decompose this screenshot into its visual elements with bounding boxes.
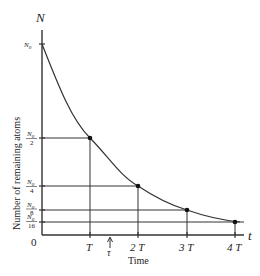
ytick-n0-4-num: N0 [26,178,35,187]
point-2T [136,184,141,189]
decay-curve [42,44,240,222]
x-axis-title: Time [128,255,149,266]
xtick-2T: 2 T [130,241,145,253]
y-axis-title: Number of remaining atoms [11,117,22,230]
xtick-T: T [86,241,93,253]
tau-label: τ [107,247,111,258]
ytick-n0-2-num: N0 [26,130,35,139]
ytick-n0-4-den: 4 [30,187,34,195]
y-axis-symbol: N [35,10,46,25]
point-4T [233,220,238,225]
point-3T [185,208,190,213]
x-axis-symbol: t [248,228,252,243]
ytick-n0-16-den: 16 [28,222,36,230]
ytick-n0: N0 [23,41,32,50]
decay-chart: N t 0 N0 N0 2 N0 4 N0 8 N0 16 T 2 T 3 T … [0,0,260,276]
xtick-3T: 3 T [178,241,194,253]
origin-label: 0 [31,236,37,248]
xtick-4T: 4 T [227,241,242,253]
point-T [88,136,93,141]
ytick-n0-2-den: 2 [30,139,34,147]
